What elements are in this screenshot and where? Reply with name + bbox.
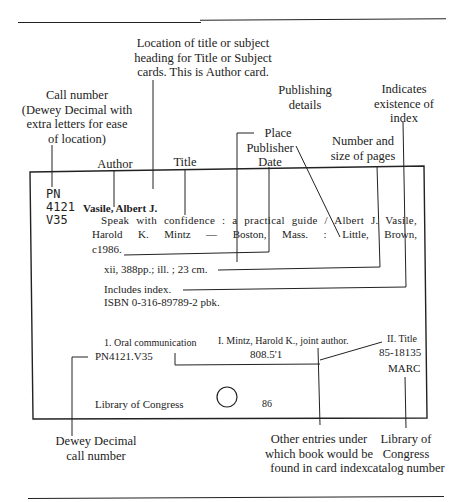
- label-author: Author: [92, 157, 138, 172]
- card-notes: Includes index.: [104, 283, 171, 296]
- card-isbn: ISBN 0-316-89789-2 pbk.: [104, 296, 220, 309]
- card-lccn: 85-18135: [379, 346, 421, 359]
- label-publishing-details: Publishing details: [270, 83, 340, 112]
- label-pages-size: Number and size of pages: [326, 134, 400, 163]
- card-tracing-added: I. Mintz, Harold K., joint author.: [218, 334, 349, 347]
- label-place-publisher-date: Place Publisher Date: [240, 126, 300, 170]
- card-year-code: 86: [262, 397, 272, 410]
- card-title-line3: c1986.: [92, 243, 122, 256]
- label-call-number: Call number (Dewey Decimal with extra le…: [12, 88, 142, 146]
- label-dewey-decimal: Dewey Decimal call number: [48, 434, 144, 463]
- card-collation: xii, 388pp.; ill. ; 23 cm.: [104, 263, 208, 276]
- card-tracing-subject: 1. Oral communication: [104, 336, 196, 349]
- circle-symbol: [217, 387, 237, 407]
- card-library: Library of Congress: [95, 398, 184, 411]
- card-tracing-title: II. Title: [387, 332, 417, 345]
- card-marc: MARC: [388, 362, 420, 375]
- label-title: Title: [168, 155, 202, 170]
- label-loc-catalog: Library of Congress catalog number: [360, 432, 452, 476]
- card-lc-call: PN4121.V35: [95, 350, 153, 363]
- card-dewey: 808.5'1: [250, 348, 282, 361]
- label-location-heading: Location of title or subject heading for…: [118, 36, 288, 80]
- card-title-line1: Speak with confidence : a practical guid…: [101, 214, 417, 227]
- label-index-existence: Indicates existence of index: [366, 82, 442, 126]
- card-call-number: PN 4121 V35: [46, 188, 75, 227]
- card-title-line2: Harold K. Mintz — Boston, Mass. : Little…: [92, 228, 417, 241]
